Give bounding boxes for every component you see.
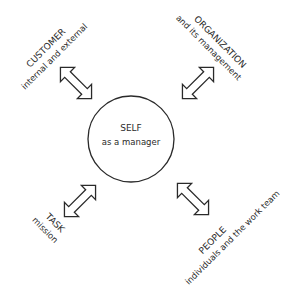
center-node-self: SELF as a manager (88, 96, 174, 182)
center-subtitle: as a manager (102, 137, 161, 147)
double-arrow-icon-organization (175, 60, 220, 105)
double-arrow-icon-task (57, 178, 102, 223)
node-task: TASK mission (30, 206, 69, 245)
double-arrow-icon-people (170, 176, 215, 221)
self-as-manager-diagram: SELF as a manager CUSTOMER internal and … (0, 0, 289, 296)
center-title: SELF (120, 123, 142, 133)
double-arrow-icon-customer (53, 60, 98, 105)
